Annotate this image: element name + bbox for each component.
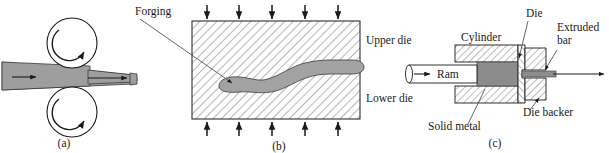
ram: Ram [406, 65, 478, 83]
upper-die-label: Upper die [366, 34, 412, 47]
cylinder-upper-wall [455, 45, 518, 62]
extruded-bar-leader-line [545, 50, 557, 70]
lower-roll [47, 87, 97, 137]
panel-c-extrusion: Ram Cylinder Die Extruded bar [406, 7, 605, 150]
metal-forming-figure: (a) [0, 0, 609, 153]
extruded-bar-label-line2: bar [557, 34, 572, 46]
cylinder-lower-wall [455, 86, 518, 103]
panel-b-forging: Forging Upper die Lower die (b) [135, 5, 413, 153]
die-backer-label: Die backer [523, 106, 573, 118]
forging-label: Forging [135, 5, 171, 18]
cylinder-label: Cylinder [461, 31, 501, 44]
lower-die-force-arrows [207, 122, 338, 136]
caption-b: (b) [272, 140, 286, 153]
caption-a: (a) [58, 137, 71, 150]
caption-c: (c) [489, 137, 502, 150]
extruded-bar-label-line1: Extruded [557, 21, 599, 33]
solid-metal-label: Solid metal [428, 120, 481, 132]
ram-label: Ram [437, 68, 459, 80]
upper-roll [47, 18, 97, 68]
die-label: Die [526, 7, 543, 19]
upper-die-force-arrows [207, 5, 338, 19]
solid-metal-billet [477, 62, 518, 86]
extruded-bar [522, 71, 604, 77]
lower-die-label: Lower die [366, 92, 413, 104]
panel-a-rolling: (a) [2, 18, 137, 150]
